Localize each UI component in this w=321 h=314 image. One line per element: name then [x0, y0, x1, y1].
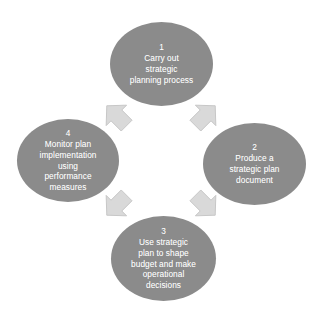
- cycle-node-1-label: 1 Carry out strategic planning process: [124, 42, 200, 85]
- cycle-node-2-label: 2 Produce a strategic plan document: [223, 142, 285, 185]
- cycle-node-1: 1 Carry out strategic planning process: [110, 22, 213, 106]
- cycle-node-4: 4 Monitor plan implementation using perf…: [17, 119, 119, 202]
- cycle-node-3-label: 3 Use strategic plan to shape budget and…: [125, 226, 202, 291]
- strategic-planning-cycle-diagram: 1 Carry out strategic planning process 2…: [0, 0, 321, 314]
- cycle-node-2: 2 Produce a strategic plan document: [203, 123, 306, 205]
- cycle-node-3: 3 Use strategic plan to shape budget and…: [111, 216, 216, 301]
- cycle-node-4-label: 4 Monitor plan implementation using perf…: [34, 128, 103, 193]
